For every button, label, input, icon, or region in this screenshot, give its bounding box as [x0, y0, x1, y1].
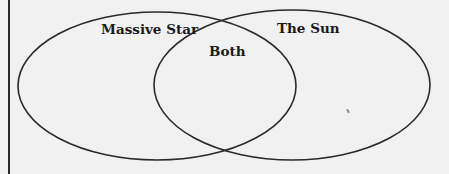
venn-diagram: Massive Star The Sun Both	[0, 0, 449, 174]
both-label: Both	[209, 45, 245, 59]
massive-star-label: Massive Star	[101, 23, 198, 37]
the-sun-label: The Sun	[277, 22, 340, 36]
venn-circles	[0, 0, 449, 174]
